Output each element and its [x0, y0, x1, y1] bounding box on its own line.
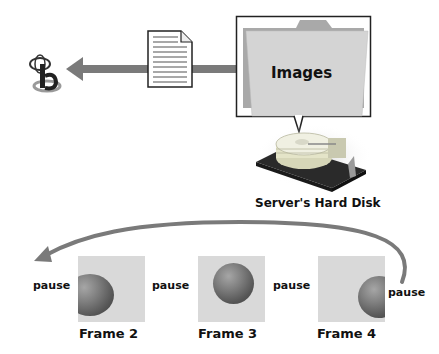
ball-icon [78, 274, 114, 316]
frame-2-image [78, 256, 145, 322]
pause-label: pause [152, 279, 189, 292]
frame-3-image [198, 256, 265, 322]
ball-icon [358, 276, 385, 318]
frame-2-label: Frame 2 [79, 326, 138, 341]
pause-label: pause [388, 286, 425, 299]
frame-3-label: Frame 3 [198, 326, 257, 341]
ball-icon [213, 263, 254, 304]
pause-label: pause [273, 279, 310, 292]
frame-4-label: Frame 4 [317, 326, 376, 341]
frame-4-image [318, 256, 385, 322]
pause-label: pause [33, 279, 70, 292]
